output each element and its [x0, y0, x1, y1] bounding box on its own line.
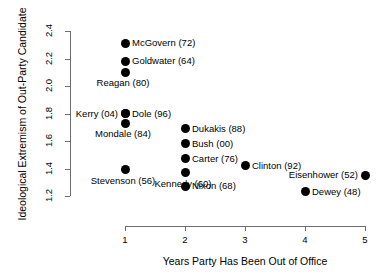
y-tick: [65, 169, 70, 170]
plot-area: 1.21.41.61.82.02.22.412345Years Party Ha…: [0, 0, 388, 279]
data-point: [181, 168, 190, 177]
data-point-label: Kerry (04): [76, 109, 118, 119]
x-tick: [245, 226, 246, 231]
y-tick-label: 1.2: [43, 183, 54, 209]
x-tick-label: 1: [122, 234, 127, 245]
data-point-label: Dewey (48): [312, 187, 361, 197]
y-tick: [65, 141, 70, 142]
y-tick-label: 1.4: [43, 155, 54, 181]
data-point: [181, 182, 190, 191]
y-tick-label: 2.2: [43, 45, 54, 71]
data-point: [121, 109, 130, 118]
x-tick-label: 4: [302, 234, 307, 245]
data-point-label: Eisenhower (52): [289, 171, 358, 181]
y-tick: [65, 59, 70, 60]
data-point-label: McGovern (72): [132, 39, 195, 49]
x-tick-label: 5: [362, 234, 367, 245]
y-tick-label: 1.8: [43, 100, 54, 126]
x-tick: [365, 226, 366, 231]
y-axis-title: Ideological Extremism of Out-Party Candi…: [16, 7, 28, 220]
scatter-plot-figure: 1.21.41.61.82.02.22.412345Years Party Ha…: [0, 0, 388, 279]
x-tick: [185, 226, 186, 231]
data-point-label: Dukakis (88): [192, 124, 245, 134]
data-point-label: Dole (96): [132, 109, 171, 119]
data-point: [181, 139, 190, 148]
x-axis-title: Years Party Has Been Out of Office: [163, 255, 328, 267]
data-point: [121, 39, 130, 48]
x-tick: [305, 226, 306, 231]
y-tick-label: 2.4: [43, 18, 54, 44]
y-tick: [65, 86, 70, 87]
data-point-label: Goldwater (64): [132, 57, 195, 67]
data-point-label: Reagan (80): [97, 78, 150, 88]
data-point: [181, 154, 190, 163]
data-point-label: Bush (00): [192, 139, 233, 149]
data-point: [241, 161, 250, 170]
y-tick: [65, 114, 70, 115]
data-point-label: Nixon (68): [192, 182, 236, 192]
data-point-label: Stevenson (56): [91, 176, 155, 186]
y-tick: [65, 196, 70, 197]
data-point-label: Mondale (84): [95, 129, 151, 139]
x-tick-label: 3: [242, 234, 247, 245]
data-point: [121, 68, 130, 77]
data-point-label: Carter (76): [192, 154, 238, 164]
data-point: [181, 124, 190, 133]
data-point: [121, 119, 130, 128]
x-tick: [125, 226, 126, 231]
data-point: [121, 165, 130, 174]
y-tick-label: 2.0: [43, 73, 54, 99]
y-tick-label: 1.6: [43, 128, 54, 154]
data-point: [301, 187, 310, 196]
data-point: [361, 171, 370, 180]
data-point: [121, 57, 130, 66]
x-tick-label: 2: [182, 234, 187, 245]
y-tick: [65, 31, 70, 32]
y-axis-line: [70, 31, 71, 196]
